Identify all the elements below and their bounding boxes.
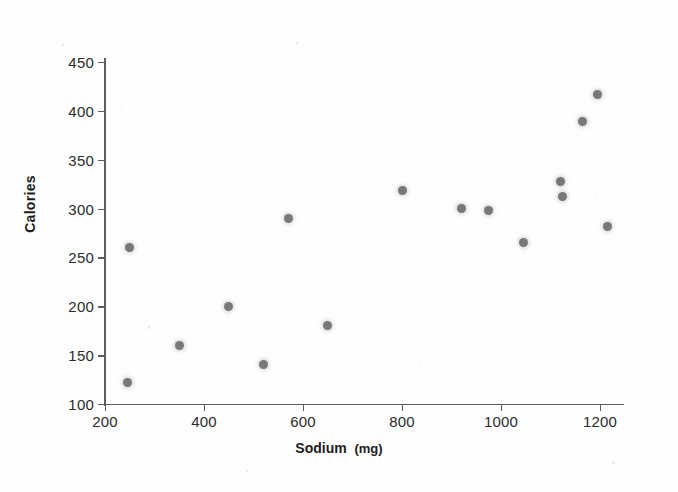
x-axis-tick xyxy=(303,405,304,411)
data-point xyxy=(556,177,565,186)
x-axis-tick-label: 800 xyxy=(372,413,432,430)
x-axis-tick xyxy=(105,405,106,411)
y-axis-tick xyxy=(98,111,104,112)
scan-speck xyxy=(246,470,248,472)
plot-area xyxy=(105,62,600,404)
x-axis-tick xyxy=(501,405,502,411)
y-axis-tick-label: 100 xyxy=(48,396,94,413)
x-axis-title-unit: (mg) xyxy=(354,441,382,456)
x-axis-tick-label: 1200 xyxy=(570,413,630,430)
scan-speck xyxy=(612,462,615,464)
y-axis-tick xyxy=(98,306,104,307)
y-axis-tick-label: 450 xyxy=(48,54,94,71)
data-point xyxy=(603,222,612,231)
x-axis-tick-label: 200 xyxy=(75,413,135,430)
data-point xyxy=(398,186,407,195)
x-axis-title-text: Sodium xyxy=(295,440,346,456)
y-axis-title: Calories xyxy=(22,144,38,264)
data-point xyxy=(175,341,184,350)
x-axis-tick xyxy=(402,405,403,411)
x-axis-tick-label: 400 xyxy=(174,413,234,430)
data-point xyxy=(323,321,332,330)
y-axis-tick xyxy=(98,257,104,258)
y-axis-tick-label: 250 xyxy=(48,249,94,266)
data-point xyxy=(558,192,567,201)
scan-speck xyxy=(62,44,64,46)
y-axis-tick-label: 200 xyxy=(48,298,94,315)
scan-speck xyxy=(148,326,150,329)
y-axis-tick xyxy=(98,62,104,63)
data-point xyxy=(123,378,132,387)
data-point xyxy=(578,117,587,126)
y-axis-tick-label: 300 xyxy=(48,200,94,217)
y-axis-tick xyxy=(98,160,104,161)
y-axis-tick xyxy=(98,404,104,405)
data-point xyxy=(224,302,233,311)
x-axis-title: Sodium (mg) xyxy=(0,440,678,456)
x-axis-tick xyxy=(204,405,205,411)
x-axis-line xyxy=(104,404,624,405)
scatter-plot-figure: 100150200250300350400450 200400600800100… xyxy=(0,0,678,492)
y-axis-tick-label: 400 xyxy=(48,102,94,119)
scan-speck xyxy=(492,208,494,210)
data-point xyxy=(457,204,466,213)
y-axis-tick-label: 350 xyxy=(48,151,94,168)
scan-speck xyxy=(296,42,298,44)
data-point xyxy=(519,238,528,247)
x-axis-tick-label: 600 xyxy=(273,413,333,430)
data-point xyxy=(593,90,602,99)
y-axis-tick xyxy=(98,209,104,210)
data-point xyxy=(125,243,134,252)
x-axis-tick-label: 1000 xyxy=(471,413,531,430)
y-axis-tick xyxy=(98,355,104,356)
data-point xyxy=(284,214,293,223)
data-point xyxy=(259,360,268,369)
y-axis-tick-label: 150 xyxy=(48,347,94,364)
x-axis-tick xyxy=(600,405,601,411)
